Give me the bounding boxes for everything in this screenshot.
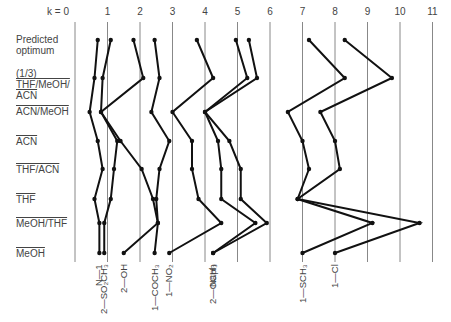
data-point [245, 76, 249, 80]
data-point [370, 221, 374, 225]
series-line [288, 40, 373, 253]
data-point [109, 197, 113, 201]
row-label-acn: ACN [16, 136, 37, 147]
row-label-text: (1/3) [16, 68, 70, 79]
data-point [338, 167, 342, 171]
substituent-label: Naph [207, 264, 218, 287]
substituent-label: 1—NO₂ [163, 264, 174, 297]
substituent-label: 1—COCH₃ [149, 264, 160, 311]
series-line [205, 40, 255, 253]
data-point [156, 221, 160, 225]
series-line [205, 40, 267, 253]
data-point [286, 110, 290, 114]
k-tick-label: 7 [300, 6, 306, 17]
k-tick-label: 8 [332, 6, 338, 17]
data-point [318, 110, 322, 114]
k-tick-label: 5 [235, 6, 241, 17]
data-point [96, 38, 100, 42]
substituent-label: 1—Cl [329, 264, 340, 288]
data-point [87, 110, 91, 114]
k-tick-label: 10 [394, 6, 405, 17]
data-point [118, 139, 122, 143]
row-label-predicted: Predicted optimum [16, 34, 58, 56]
data-point [152, 38, 156, 42]
substituent-label: 1—SCH₃ [297, 264, 308, 303]
data-point [196, 197, 200, 201]
data-point [255, 76, 259, 80]
data-point [307, 167, 311, 171]
data-point [100, 167, 104, 171]
data-point [167, 251, 171, 255]
data-point [333, 139, 337, 143]
k-tick-label: 6 [267, 6, 273, 17]
data-point [141, 76, 145, 80]
k-tick-label: 1 [105, 6, 111, 17]
data-point [100, 76, 104, 80]
data-point [203, 110, 207, 114]
data-point [92, 197, 96, 201]
data-point [170, 110, 174, 114]
data-point [227, 139, 231, 143]
data-point [102, 251, 106, 255]
series-line [151, 40, 169, 253]
data-point [239, 197, 243, 201]
data-point [219, 221, 223, 225]
data-point [167, 139, 171, 143]
data-point [152, 251, 156, 255]
data-point [333, 251, 337, 255]
row-label-thf: THF [16, 194, 35, 205]
data-point [253, 221, 257, 225]
data-point [131, 38, 135, 42]
data-point [300, 139, 304, 143]
data-point [97, 221, 101, 225]
row-label-third: (1/3) THF/MeOH/ ACN [16, 68, 70, 101]
series-line [101, 40, 158, 253]
data-point [234, 38, 238, 42]
row-label-thf-acn: THF/ACN [16, 164, 59, 175]
data-point [300, 251, 304, 255]
k-tick-label: 9 [365, 6, 371, 17]
data-point [343, 38, 347, 42]
data-point [295, 197, 299, 201]
data-point [211, 76, 215, 80]
data-point [122, 251, 126, 255]
row-label-text: Predicted [16, 34, 58, 45]
series-line [298, 40, 420, 253]
data-point [96, 139, 100, 143]
data-point [139, 167, 143, 171]
data-point [190, 167, 194, 171]
row-label-text: optimum [16, 45, 58, 56]
data-point [102, 221, 106, 225]
data-point [265, 221, 269, 225]
data-point [109, 38, 113, 42]
data-point [157, 76, 161, 80]
row-label-meoh-thf: MeOH/THF [16, 218, 67, 229]
k-tick-label: 3 [170, 6, 176, 17]
k-tick-label: 2 [137, 6, 143, 17]
data-point [97, 251, 101, 255]
k-tick-label: 11 [427, 6, 437, 17]
data-point [307, 38, 311, 42]
data-point [216, 139, 220, 143]
data-point [417, 221, 421, 225]
data-point [343, 76, 347, 80]
k-tick-label: 4 [202, 6, 208, 17]
data-point [239, 167, 243, 171]
data-point [154, 197, 158, 201]
row-label-text: ACN [16, 90, 70, 101]
data-point [149, 110, 153, 114]
plot-area [0, 0, 451, 322]
substituent-label: 2—OH [118, 264, 129, 293]
row-label-meoh: MeOH [16, 248, 45, 259]
k-axis-label: k = 0 [47, 6, 69, 17]
data-point [190, 139, 194, 143]
series-line [90, 40, 103, 253]
series-line [169, 40, 221, 253]
data-point [219, 197, 223, 201]
data-point [99, 110, 103, 114]
data-point [112, 167, 116, 171]
row-label-acn-meoh: ACN/MeOH [16, 106, 69, 117]
data-point [195, 38, 199, 42]
substituent-label: 2—SO₂CH₃ [98, 264, 109, 314]
data-point [157, 167, 161, 171]
